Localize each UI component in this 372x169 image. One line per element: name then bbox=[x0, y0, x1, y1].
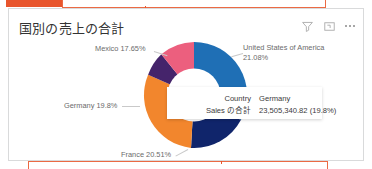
tooltip-row-country: Country Germany bbox=[173, 93, 290, 104]
screenshot-root: 国別の売上の合計 bbox=[0, 0, 372, 169]
tooltip-key-country: Country bbox=[173, 93, 259, 104]
filter-icon[interactable] bbox=[301, 19, 314, 32]
data-label-united-states-of-america: United States of America 21.08% bbox=[243, 43, 335, 62]
page-title: 国別の売上の合計 bbox=[19, 18, 125, 37]
annotation-badge-top bbox=[6, 0, 62, 7]
focus-mode-icon[interactable] bbox=[323, 19, 336, 32]
data-label-france: France 20.51% bbox=[121, 150, 171, 160]
visual-header-actions bbox=[301, 19, 355, 32]
annotation-frame-top bbox=[62, 0, 326, 8]
pie-chart-visual-card[interactable]: 国別の売上の合計 bbox=[8, 8, 364, 161]
tooltip-value-country: Germany bbox=[259, 93, 290, 104]
annotation-frame-bottom bbox=[28, 161, 328, 169]
more-options-icon[interactable] bbox=[345, 19, 355, 32]
chart-tooltip: Country Germany Sales の合計 23,505,340.82 … bbox=[167, 87, 322, 119]
tooltip-key-sales: Sales の合計 bbox=[173, 105, 259, 116]
data-label-germany: Germany 19.8% bbox=[64, 101, 117, 111]
leader-line-germany bbox=[122, 106, 140, 107]
data-label-mexico: Mexico 17.65% bbox=[95, 44, 146, 54]
tooltip-row-sales: Sales の合計 23,505,340.82 (19.8%) bbox=[173, 105, 336, 116]
tooltip-value-sales: 23,505,340.82 (19.8%) bbox=[259, 105, 336, 116]
